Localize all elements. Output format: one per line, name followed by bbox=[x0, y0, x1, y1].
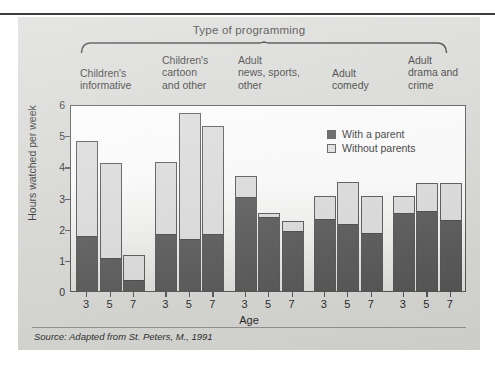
bar-segment-with-parent bbox=[362, 233, 382, 290]
x-tick-mark bbox=[245, 292, 246, 297]
x-tick-label-3: 3 bbox=[83, 298, 89, 310]
bar-group0-age3 bbox=[76, 141, 98, 291]
x-tick-mark bbox=[292, 292, 293, 297]
x-tick-label-3: 3 bbox=[321, 298, 327, 310]
figure-panel: Type of programming Children's informati… bbox=[18, 17, 480, 350]
legend: With a parent Without parents bbox=[327, 128, 416, 156]
bar-segment-with-parent bbox=[315, 219, 335, 290]
legend-swatch-light-icon bbox=[327, 144, 336, 153]
type-of-programming-title: Type of programming bbox=[18, 24, 480, 36]
x-tick-mark bbox=[371, 292, 372, 297]
x-tick-label-7: 7 bbox=[209, 298, 215, 310]
source-divider bbox=[32, 327, 466, 328]
x-axis-label: Age bbox=[18, 314, 480, 326]
x-tick-mark bbox=[324, 292, 325, 297]
x-tick-label-7: 7 bbox=[130, 298, 136, 310]
bar-group3-age5 bbox=[337, 182, 359, 291]
source-note: Source: Adapted from St. Peters, M., 199… bbox=[34, 331, 213, 342]
x-tick-label-3: 3 bbox=[400, 298, 406, 310]
y-tick-mark-2 bbox=[65, 230, 70, 231]
bar-group-2 bbox=[235, 106, 304, 291]
x-tick-label-5: 5 bbox=[265, 298, 271, 310]
x-tick-label-7: 7 bbox=[447, 298, 453, 310]
group-header-childrens-cartoon-and-other: Children's cartoon and other bbox=[162, 54, 248, 91]
x-tick-mark bbox=[268, 292, 269, 297]
bar-group4-age5 bbox=[416, 183, 438, 291]
legend-item-without-parents: Without parents bbox=[327, 142, 416, 154]
plot-area: With a parent Without parents bbox=[70, 105, 466, 292]
bar-group1-age5 bbox=[179, 113, 201, 291]
bar-group2-age7 bbox=[282, 221, 304, 291]
bar-segment-with-parent bbox=[283, 231, 303, 290]
x-tick-mark bbox=[212, 292, 213, 297]
group-header-childrens-informative: Children's informative bbox=[80, 67, 166, 92]
bar-segment-with-parent bbox=[394, 213, 414, 290]
bar-group0-age7 bbox=[123, 255, 145, 291]
bar-segment-with-parent bbox=[259, 217, 279, 290]
bar-segment-with-parent bbox=[101, 258, 121, 290]
x-tick-label-3: 3 bbox=[162, 298, 168, 310]
programming-bracket bbox=[80, 41, 448, 53]
bar-segment-with-parent bbox=[441, 220, 461, 290]
x-tick-label-5: 5 bbox=[107, 298, 113, 310]
bar-group2-age5 bbox=[258, 213, 280, 291]
x-tick-mark bbox=[426, 292, 427, 297]
bar-segment-with-parent bbox=[417, 211, 437, 290]
bar-group0-age5 bbox=[100, 163, 122, 291]
x-tick-label-5: 5 bbox=[344, 298, 350, 310]
bar-segment-with-parent bbox=[156, 234, 176, 290]
bar-group4-age7 bbox=[440, 183, 462, 291]
y-tick-label-6: 6 bbox=[59, 99, 65, 111]
bar-group-0 bbox=[76, 106, 145, 291]
x-tick-label-5: 5 bbox=[186, 298, 192, 310]
bar-group1-age3 bbox=[155, 162, 177, 291]
x-tick-label-7: 7 bbox=[368, 298, 374, 310]
x-tick-mark bbox=[347, 292, 348, 297]
bar-segment-with-parent bbox=[236, 197, 256, 290]
x-tick-mark bbox=[403, 292, 404, 297]
legend-swatch-dark-icon bbox=[327, 130, 336, 139]
x-tick-mark bbox=[189, 292, 190, 297]
bar-group-1 bbox=[155, 106, 224, 291]
y-tick-mark-1 bbox=[65, 261, 70, 262]
y-tick-mark-4 bbox=[65, 167, 70, 168]
y-axis-label: Hours watched per week bbox=[26, 73, 38, 253]
bar-segment-with-parent bbox=[124, 280, 144, 290]
bar-segment-with-parent bbox=[203, 234, 223, 290]
group-header-adult-comedy: Adult comedy bbox=[332, 67, 418, 92]
bar-group3-age7 bbox=[361, 196, 383, 291]
top-rule bbox=[0, 13, 495, 15]
group-headers: Children's informative Children's cartoo… bbox=[70, 53, 480, 99]
x-tick-mark bbox=[86, 292, 87, 297]
x-tick-label-3: 3 bbox=[241, 298, 247, 310]
group-header-adult-drama-and-crime: Adult drama and crime bbox=[408, 54, 494, 91]
bar-segment-with-parent bbox=[180, 239, 200, 290]
bar-group1-age7 bbox=[202, 126, 224, 291]
legend-label-with-a-parent: With a parent bbox=[342, 128, 404, 140]
x-tick-mark bbox=[110, 292, 111, 297]
y-tick-label-0: 0 bbox=[59, 286, 65, 298]
group-header-adult-news-sports-other: Adult news, sports, other bbox=[238, 54, 324, 91]
x-tick-label-7: 7 bbox=[288, 298, 294, 310]
legend-item-with-a-parent: With a parent bbox=[327, 128, 416, 140]
x-tick-mark bbox=[165, 292, 166, 297]
figure-root: Type of programming Children's informati… bbox=[0, 0, 495, 375]
x-tick-mark bbox=[450, 292, 451, 297]
bar-group2-age3 bbox=[235, 176, 257, 291]
y-tick-mark-5 bbox=[65, 136, 70, 137]
y-tick-mark-3 bbox=[65, 199, 70, 200]
x-tick-mark bbox=[133, 292, 134, 297]
bar-segment-with-parent bbox=[77, 236, 97, 290]
bar-group4-age3 bbox=[393, 196, 415, 291]
legend-label-without-parents: Without parents bbox=[342, 142, 416, 154]
bar-group3-age3 bbox=[314, 196, 336, 291]
plot-area-wrapper: With a parent Without parents 0123456 35… bbox=[70, 105, 466, 292]
bar-segment-with-parent bbox=[338, 224, 358, 290]
x-tick-label-5: 5 bbox=[423, 298, 429, 310]
